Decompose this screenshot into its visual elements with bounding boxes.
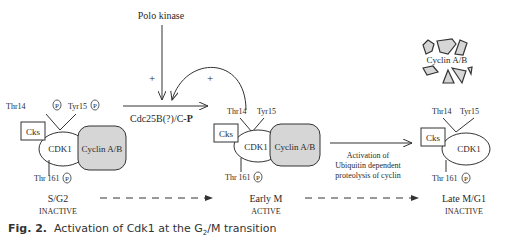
complex-late-m-g1: Thr14 Tyr15 Cks CDK1 Thr 161 P Late M/G1… (421, 107, 490, 216)
plus-left: + (149, 72, 155, 84)
svg-text:P: P (256, 174, 260, 182)
plus-right: + (207, 72, 213, 84)
tyr15-label: Tyr15 (257, 107, 276, 116)
phase-label: S/G2 (48, 193, 69, 204)
cdk1-label: CDK1 (457, 144, 481, 154)
tyr15-label: Tyr15 (460, 107, 479, 116)
svg-text:P: P (464, 175, 468, 183)
degradation-line1: Activation of (347, 151, 390, 160)
cdk1-label: CDK1 (48, 144, 72, 154)
figure-caption: Fig. 2. Activation of Cdk1 at the G2/M t… (8, 222, 276, 237)
svg-text:P: P (93, 102, 97, 110)
cyclin-label: Cyclin A/B (275, 142, 316, 152)
thr14-label: Thr14 (227, 107, 247, 116)
thr161-label: Thr 161 (225, 173, 251, 182)
svg-text:Cks: Cks (426, 133, 441, 143)
complex-s-g2: Thr14 P Tyr15 P Cks CDK1 Cyclin A/B Thr … (6, 100, 126, 216)
cyclin-label: Cyclin A/B (82, 144, 123, 154)
degradation-line3: proteolysis of cyclin (335, 171, 400, 180)
phase-label: Early M (249, 193, 282, 204)
cdk1-label: CDK1 (244, 142, 268, 152)
cdk1-activation-diagram: Polo kinase + + Cdc25B(?)/C-P Thr14 P Ty… (0, 0, 505, 243)
state-label: INACTIVE (445, 207, 483, 216)
svg-text:P: P (65, 175, 69, 183)
complex-early-m: Thr14 Tyr15 Cks CDK1 Cyclin A/B Thr 161 … (214, 107, 320, 216)
svg-text:P: P (55, 102, 59, 110)
thr161-label: Thr 161 (432, 174, 458, 183)
degradation-line2: Ubiquitin dependent (335, 161, 401, 170)
thr14-label: Thr14 (6, 102, 26, 111)
svg-text:Cks: Cks (26, 127, 41, 137)
figure-label: Fig. 2. (8, 222, 47, 235)
svg-text:Cks: Cks (219, 129, 234, 139)
thr161-label: Thr 161 (34, 174, 60, 183)
polo-kinase-label: Polo kinase (138, 10, 185, 21)
thr14-label: Thr14 (432, 107, 452, 116)
fragments-label: Cyclin A/B (427, 55, 468, 65)
phase-label: Late M/G1 (442, 193, 486, 204)
phosphatase-label: Cdc25B(?)/C-P (130, 113, 193, 125)
state-label: INACTIVE (39, 207, 77, 216)
state-label: ACTIVE (251, 207, 280, 216)
tyr15-label: Tyr15 (68, 102, 87, 111)
